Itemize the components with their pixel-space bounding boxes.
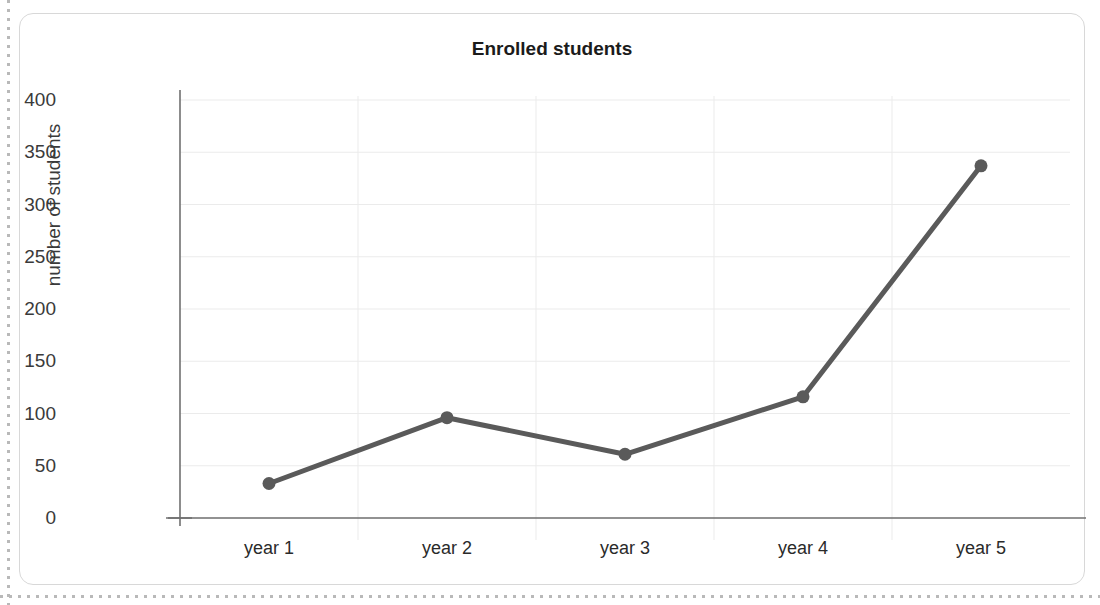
y-tick-label: 400 (0, 89, 56, 111)
data-point-marker (619, 448, 632, 461)
y-tick-label: 150 (0, 350, 56, 372)
page-edge-bottom-dots (0, 595, 1100, 598)
y-tick-label: 50 (0, 455, 56, 477)
data-point-marker (797, 390, 810, 403)
line-chart-canvas (20, 14, 1086, 586)
x-tick-label: year 2 (367, 538, 527, 559)
data-point-marker (975, 159, 988, 172)
data-point-marker (263, 477, 276, 490)
data-line-path (269, 166, 981, 484)
x-tick-label: year 1 (189, 538, 349, 559)
plot-area: number of students 050100150200250300350… (20, 14, 1084, 584)
data-point-marker (441, 411, 454, 424)
x-tick-label: year 3 (545, 538, 705, 559)
x-tick-label: year 4 (723, 538, 883, 559)
figure-card: Enrolled students number of students 050… (19, 13, 1085, 585)
y-tick-label: 200 (0, 298, 56, 320)
y-tick-label: 250 (0, 246, 56, 268)
y-tick-label: 0 (0, 507, 56, 529)
y-tick-label: 300 (0, 194, 56, 216)
y-tick-label: 350 (0, 141, 56, 163)
data-point-markers (263, 159, 988, 490)
y-tick-label: 100 (0, 403, 56, 425)
x-tick-label: year 5 (901, 538, 1061, 559)
vertical-gridlines (358, 96, 892, 540)
series-polyline (269, 166, 981, 484)
